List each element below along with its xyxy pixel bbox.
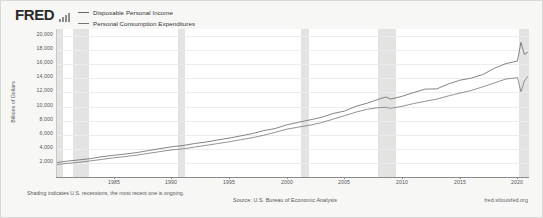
x-axis-tick-label: 2020: [502, 179, 532, 186]
y-axis-tick-label: 6,000: [25, 130, 53, 136]
y-axis-tick-label: 12,000: [25, 87, 53, 93]
chart-plot-wrapper: Billions of Dollars 2,0004,0006,0008,000…: [1, 1, 543, 218]
y-axis-tick-label: 20,000: [25, 31, 53, 37]
x-axis-tick-label: 2010: [387, 179, 417, 186]
plot-area: [56, 29, 529, 177]
y-axis-tick-label: 4,000: [25, 144, 53, 150]
y-axis-tick-label: 8,000: [25, 116, 53, 122]
y-axis-tick-label: 14,000: [25, 73, 53, 79]
x-axis-tick-label: 2000: [272, 179, 302, 186]
series-line-1: [56, 42, 528, 162]
fred-chart-panel: FRED Disposable Personal Income Personal…: [0, 0, 543, 218]
x-axis-line: [56, 177, 529, 178]
x-axis-tick-label: 1995: [214, 179, 244, 186]
y-axis-tick-label: 18,000: [25, 45, 53, 51]
y-axis-tick-label: 16,000: [25, 59, 53, 65]
y-axis-tick-label: 10,000: [25, 102, 53, 108]
x-axis-tick-labels: 19851990199520002005201020152020: [56, 179, 529, 189]
x-axis-tick-label: 1985: [99, 179, 129, 186]
y-axis-line: [56, 29, 57, 177]
y-axis-tick-labels: 2,0004,0006,0008,00010,00012,00014,00016…: [25, 27, 53, 175]
series-line-2: [56, 76, 528, 164]
recession-shading-note: Shading indicates U.S. recessions, the m…: [27, 190, 202, 197]
y-axis-title: Billions of Dollars: [10, 72, 16, 132]
x-axis-tick-label: 2005: [329, 179, 359, 186]
fred-url[interactable]: fred.stlouisfed.org: [484, 197, 528, 204]
y-axis-tick-label: 2,000: [25, 158, 53, 164]
x-axis-tick-label: 2015: [445, 179, 475, 186]
series-lines: [56, 29, 529, 177]
chart-source: Source: U.S. Bureau of Economic Analysis: [233, 197, 337, 204]
x-axis-tick-label: 1990: [156, 179, 186, 186]
